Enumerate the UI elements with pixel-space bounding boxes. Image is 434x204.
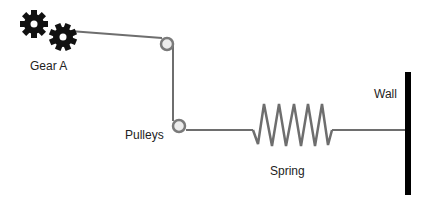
mechanism-diagram: Gear A Pulleys Spring Wall	[0, 0, 434, 204]
pulley-upper-icon	[161, 38, 173, 50]
spring-icon	[253, 104, 332, 146]
gear-right-icon	[49, 23, 77, 51]
wall-icon	[405, 72, 411, 195]
gear-label: Gear A	[30, 59, 67, 73]
pulleys-label: Pulleys	[125, 128, 164, 142]
spring-label: Spring	[270, 164, 305, 178]
gear-left-icon	[20, 10, 48, 38]
wall-label: Wall	[374, 87, 397, 101]
pulley-lower-icon	[173, 120, 185, 132]
rope-gear-to-pulley	[70, 31, 162, 38]
